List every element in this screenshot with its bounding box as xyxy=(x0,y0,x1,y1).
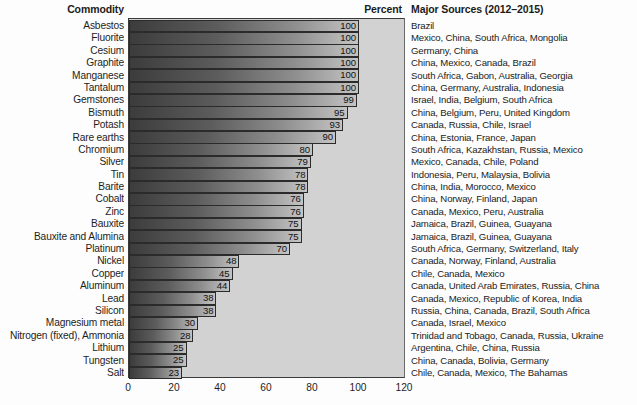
chart-page: Commodity Percent Major Sources (2012–20… xyxy=(0,0,637,405)
bar: 76 xyxy=(129,205,304,218)
bar-fill: 90 xyxy=(129,131,336,144)
bar-fill: 100 xyxy=(129,44,359,57)
bar-fill: 100 xyxy=(129,20,359,33)
bar-fill: 76 xyxy=(129,205,304,218)
bar: 25 xyxy=(129,342,187,355)
bar-fill: 38 xyxy=(129,305,216,318)
bar: 28 xyxy=(129,329,193,342)
x-axis-tick-label: 60 xyxy=(260,382,271,393)
bar-fill: 23 xyxy=(129,367,182,380)
bar: 80 xyxy=(129,143,313,156)
x-axis-tick-label: 40 xyxy=(214,382,225,393)
bar-value-label: 100 xyxy=(340,21,356,31)
bar-fill: 78 xyxy=(129,168,308,181)
bar-value-label: 76 xyxy=(290,195,300,205)
bar-value-label: 30 xyxy=(185,318,195,328)
bar-value-label: 23 xyxy=(168,368,178,378)
bar: 79 xyxy=(129,156,311,169)
bar: 38 xyxy=(129,305,216,318)
x-axis: 020406080100120 xyxy=(128,379,406,401)
x-axis-tick-label: 100 xyxy=(350,382,367,393)
bar: 75 xyxy=(129,230,302,243)
bar-value-label: 75 xyxy=(288,219,298,229)
bar-fill: 78 xyxy=(129,181,308,194)
bar-value-label: 45 xyxy=(219,269,229,279)
bar-fill: 48 xyxy=(129,255,239,268)
bar-value-label: 78 xyxy=(295,182,305,192)
bar-value-label: 44 xyxy=(217,281,227,291)
bar-fill: 80 xyxy=(129,143,313,156)
bar-value-label: 78 xyxy=(295,170,305,180)
bar-fill: 44 xyxy=(129,280,230,293)
header-major-sources: Major Sources (2012–2015) xyxy=(411,3,543,15)
bar: 76 xyxy=(129,193,304,206)
bar: 78 xyxy=(129,181,308,194)
header-commodity: Commodity xyxy=(0,3,124,15)
bar-value-label: 79 xyxy=(297,157,307,167)
bar-value-label: 95 xyxy=(334,108,344,118)
bar-value-label: 80 xyxy=(300,145,310,155)
bar-fill: 30 xyxy=(129,317,198,330)
bar-fill: 76 xyxy=(129,193,304,206)
x-axis-tick-label: 0 xyxy=(125,382,131,393)
bar-fill: 70 xyxy=(129,243,290,256)
bar-value-label: 100 xyxy=(340,33,356,43)
bar-value-label: 25 xyxy=(173,356,183,366)
bar-fill: 28 xyxy=(129,329,193,342)
bar-value-label: 99 xyxy=(343,95,353,105)
bar-value-label: 90 xyxy=(323,133,333,143)
bar: 25 xyxy=(129,354,187,367)
bar-fill: 25 xyxy=(129,354,187,367)
bar: 93 xyxy=(129,119,343,132)
bar-value-label: 100 xyxy=(340,83,356,93)
bar-value-label: 100 xyxy=(340,58,356,68)
bar-fill: 100 xyxy=(129,32,359,45)
bar: 90 xyxy=(129,131,336,144)
category-label: Salt xyxy=(0,366,124,380)
bar-value-label: 38 xyxy=(203,306,213,316)
header-percent: Percent xyxy=(310,3,402,15)
bar-value-label: 48 xyxy=(226,257,236,267)
bar: 30 xyxy=(129,317,198,330)
bar-fill: 100 xyxy=(129,57,359,70)
bar: 95 xyxy=(129,106,348,119)
bar-value-label: 76 xyxy=(290,207,300,217)
bar-fill: 100 xyxy=(129,82,359,95)
bar-fill: 99 xyxy=(129,94,357,107)
bar: 100 xyxy=(129,57,359,70)
bar-value-label: 25 xyxy=(173,343,183,353)
bar: 23 xyxy=(129,367,182,380)
bar-value-label: 70 xyxy=(277,244,287,254)
bar: 100 xyxy=(129,44,359,57)
bar: 100 xyxy=(129,32,359,45)
bar-value-label: 28 xyxy=(180,331,190,341)
bar-fill: 100 xyxy=(129,69,359,82)
major-sources-label: Chile, Canada, Mexico, The Bahamas xyxy=(411,366,567,380)
bar: 38 xyxy=(129,292,216,305)
bar: 44 xyxy=(129,280,230,293)
x-axis-tick-label: 20 xyxy=(168,382,179,393)
bar-fill: 93 xyxy=(129,119,343,132)
bar: 45 xyxy=(129,267,233,280)
bar-row: Salt23Chile, Canada, Mexico, The Bahamas xyxy=(0,366,637,380)
bar: 100 xyxy=(129,69,359,82)
bar: 78 xyxy=(129,168,308,181)
bar-fill: 45 xyxy=(129,267,233,280)
bar-fill: 25 xyxy=(129,342,187,355)
bar-fill: 75 xyxy=(129,218,302,231)
bar: 70 xyxy=(129,243,290,256)
bar-fill: 38 xyxy=(129,292,216,305)
bar: 75 xyxy=(129,218,302,231)
bar-fill: 79 xyxy=(129,156,311,169)
bar-fill: 95 xyxy=(129,106,348,119)
bar-fill: 75 xyxy=(129,230,302,243)
x-axis-tick-label: 120 xyxy=(396,382,413,393)
bar-value-label: 93 xyxy=(329,120,339,130)
bar: 100 xyxy=(129,20,359,33)
bar-value-label: 38 xyxy=(203,294,213,304)
bar-value-label: 100 xyxy=(340,46,356,56)
bar: 100 xyxy=(129,82,359,95)
x-axis-tick-label: 80 xyxy=(306,382,317,393)
bar-value-label: 75 xyxy=(288,232,298,242)
bar: 48 xyxy=(129,255,239,268)
